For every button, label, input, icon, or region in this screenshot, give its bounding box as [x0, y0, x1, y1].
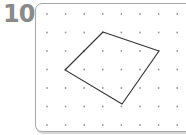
- grid-dot: [121, 124, 123, 126]
- grid-dot: [139, 106, 141, 108]
- grid-dot: [46, 13, 48, 15]
- grid-dot: [102, 50, 104, 52]
- grid-dot: [65, 124, 67, 126]
- grid-dot: [176, 124, 178, 126]
- grid-dot: [176, 87, 178, 89]
- grid-dot: [46, 124, 48, 126]
- grid-dot: [139, 50, 141, 52]
- grid-dot: [158, 124, 160, 126]
- grid-dot: [158, 13, 160, 15]
- grid-dot: [65, 87, 67, 89]
- grid-dot: [83, 106, 85, 108]
- grid-dot: [139, 87, 141, 89]
- quadrilateral-shape: [65, 32, 159, 104]
- grid-dot: [158, 32, 160, 34]
- grid-dot: [65, 32, 67, 34]
- grid-dot: [121, 13, 123, 15]
- grid-dot: [158, 106, 160, 108]
- grid-dot: [65, 13, 67, 15]
- grid-dot: [83, 32, 85, 34]
- grid-dot: [121, 69, 123, 71]
- grid-dot: [46, 69, 48, 71]
- dot-grid-canvas: [0, 0, 186, 135]
- grid-dot: [83, 124, 85, 126]
- grid-dot: [158, 87, 160, 89]
- grid-dot: [83, 87, 85, 89]
- grid-dot: [121, 106, 123, 108]
- grid-dot: [121, 87, 123, 89]
- grid-dot: [83, 13, 85, 15]
- grid-dot: [46, 106, 48, 108]
- grid-dot: [176, 32, 178, 34]
- grid-dot: [102, 124, 104, 126]
- grid-dot: [176, 69, 178, 71]
- grid-dot: [83, 69, 85, 71]
- grid-dot: [176, 106, 178, 108]
- grid-dot: [102, 13, 104, 15]
- grid-dot: [46, 50, 48, 52]
- grid-dot: [139, 124, 141, 126]
- grid-dot: [102, 69, 104, 71]
- grid-dot: [102, 87, 104, 89]
- grid-dot: [46, 32, 48, 34]
- grid-dot: [139, 32, 141, 34]
- grid-dot: [65, 50, 67, 52]
- grid-dot: [176, 13, 178, 15]
- grid-dot: [102, 106, 104, 108]
- grid-dot: [139, 13, 141, 15]
- grid-dot: [65, 106, 67, 108]
- grid-dot: [139, 69, 141, 71]
- grid-dot: [46, 87, 48, 89]
- grid-dot: [121, 32, 123, 34]
- grid-dot: [176, 50, 178, 52]
- grid-dot: [158, 69, 160, 71]
- grid-dot: [121, 50, 123, 52]
